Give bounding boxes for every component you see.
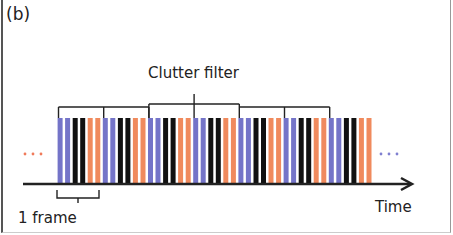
bar-orange [88,118,93,184]
bar-blue [156,118,161,184]
frame-brace-line [57,190,99,198]
bar-orange [359,118,364,184]
bar-black [118,118,123,184]
bar-orange [314,118,319,184]
ellipsis-dot-right [380,153,383,156]
bar-blue [284,118,289,184]
bar-orange [321,118,326,184]
bar-orange [178,118,183,184]
clutter-filter-brackets [59,94,330,118]
bar-blue [201,118,206,184]
bar-black [306,118,311,184]
bar-orange [133,118,138,184]
timeline-diagram [0,0,453,235]
ellipsis-dot-left [32,153,35,156]
bar-blue [336,118,341,184]
bar-black [125,118,130,184]
bar-black [208,118,213,184]
bar-black [351,118,356,184]
bar-blue [58,118,63,184]
bar-black [344,118,349,184]
bar-blue [246,118,251,184]
bar-black [216,118,221,184]
bar-blue [291,118,296,184]
bar-blue [193,118,198,184]
bar-black [299,118,304,184]
bar-blue [110,118,115,184]
bar-blue [148,118,153,184]
bar-orange [231,118,236,184]
bar-black [163,118,168,184]
bar-orange [269,118,274,184]
bar-orange [186,118,191,184]
ellipsis-dot-right [388,153,391,156]
bar-orange [276,118,281,184]
bar-orange [367,118,372,184]
ellipsis-dot-left [40,153,43,156]
bar-orange [141,118,146,184]
bar-orange [223,118,228,184]
bar-blue [65,118,70,184]
bar-group [58,118,372,184]
bar-black [171,118,176,184]
bar-orange [95,118,100,184]
bar-blue [329,118,334,184]
ellipsis-dot-left [24,153,27,156]
bar-black [80,118,85,184]
bar-black [261,118,266,184]
frame-brace [57,190,99,203]
bar-blue [103,118,108,184]
bar-black [254,118,259,184]
ellipsis-dot-right [396,153,399,156]
bar-black [73,118,78,184]
bar-blue [238,118,243,184]
